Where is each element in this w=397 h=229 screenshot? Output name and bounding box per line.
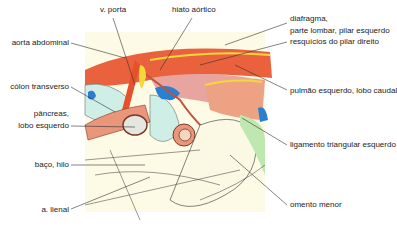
label-diafragma: diafragma, (290, 14, 328, 24)
label-baco-hilo: baço, hilo (35, 160, 69, 170)
label-omento-menor: omento menor (290, 200, 342, 210)
label-parte-lombar: parte lombar, pilar esquerdo (290, 26, 390, 36)
label-ligamento: ligamento triangular esquerdo (290, 140, 396, 150)
label-pulmao: pulmão esquerdo, lobo caudal (290, 86, 397, 96)
label-colon-transverso: cólon transverso (10, 82, 69, 92)
label-resquicios: resquícios do pilar direito (290, 37, 379, 47)
label-a-lienal: a. lienal (41, 205, 69, 215)
label-v-porta: v. porta (100, 5, 126, 15)
label-hiato-aortico: hiato aórtico (172, 5, 216, 15)
label-pancreas: pâncreas, (34, 109, 69, 119)
label-aorta-abdominal: aorta abdominal (12, 38, 69, 48)
label-lobo-esquerdo: lobo esquerdo (18, 121, 69, 131)
